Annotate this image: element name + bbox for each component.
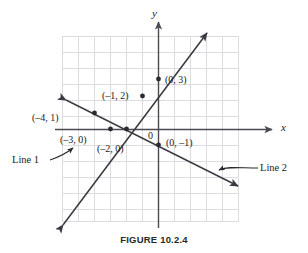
x-axis-label: x (281, 122, 286, 133)
point-neg1-2 (140, 94, 145, 99)
point-neg2-0 (124, 127, 129, 132)
annotation-point-0-3: (0, 3) (165, 75, 187, 85)
line-1-label: Line 1 (12, 155, 39, 166)
line1-leader (50, 148, 73, 160)
y-axis-label: y (152, 8, 157, 19)
point-0-3 (156, 77, 161, 82)
figure-caption: FIGURE 10.2.4 (0, 234, 308, 245)
point-neg3-0 (108, 127, 113, 132)
line-2-label: Line 2 (260, 163, 287, 174)
annotation-point-0-neg1: (0, –1) (166, 138, 193, 148)
annotation-point-neg1-2: (–1, 2) (102, 91, 129, 101)
annotation-point-neg2-0: (–2, 0) (97, 144, 124, 154)
point-neg4-1 (92, 111, 97, 116)
annotation-point-neg4-1: (–4, 1) (32, 113, 59, 123)
origin-label: 0 (148, 131, 153, 141)
line-2 (66, 100, 238, 186)
figure-container: y x 0 (0, 3) (–1, 2) (–4, 1) (–3, 0) (–2… (0, 0, 308, 253)
coordinate-plot (0, 0, 308, 253)
point-0-neg1 (156, 143, 161, 148)
annotation-point-neg3-0: (–3, 0) (60, 135, 87, 145)
